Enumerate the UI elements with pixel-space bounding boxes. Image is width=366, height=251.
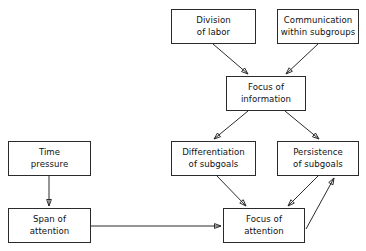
edge-differentiation_subgoals-to-focus_of_attention xyxy=(217,176,246,206)
node-span-of-attention[interactable]: Span of attention xyxy=(8,208,91,243)
edge-focus_of_information-to-persistence_subgoals xyxy=(285,111,319,139)
node-persistence-of-subgoals[interactable]: Persistence of subgoals xyxy=(277,141,359,176)
edge-time_pressure-to-span_of_attention xyxy=(47,176,52,206)
node-time-pressure[interactable]: Time pressure xyxy=(8,141,91,176)
edge-persistence_subgoals-to-focus_of_attention xyxy=(288,176,318,206)
node-focus-of-attention[interactable]: Focus of attention xyxy=(223,208,305,243)
node-label: Differentiation of subgoals xyxy=(182,147,245,170)
node-focus-of-information[interactable]: Focus of information xyxy=(226,76,306,111)
node-differentiation-of-subgoals[interactable]: Differentiation of subgoals xyxy=(171,141,256,176)
node-label: Focus of information xyxy=(241,82,291,105)
edge-division_of_labor-to-focus_of_information xyxy=(213,44,248,74)
node-label: Persistence of subgoals xyxy=(293,147,343,170)
edge-focus_of_information-to-differentiation_subgoals xyxy=(214,111,248,139)
node-label: Focus of attention xyxy=(244,214,284,237)
edge-span_of_attention-to-focus_of_attention xyxy=(91,224,221,229)
diagram-canvas: Division of labor Communication within s… xyxy=(0,0,366,251)
edge-communication_subgroups-to-focus_of_information xyxy=(286,44,318,74)
node-label: Division of labor xyxy=(196,15,230,38)
node-division-of-labor[interactable]: Division of labor xyxy=(171,9,256,44)
node-label: Span of attention xyxy=(30,214,70,237)
edge-focus_of_attention-to-persistence_subgoals xyxy=(306,178,334,229)
arrowhead xyxy=(329,178,334,185)
node-label: Time pressure xyxy=(31,147,69,170)
node-label: Communication within subgroups xyxy=(281,15,355,38)
node-communication-within-subgroups[interactable]: Communication within subgroups xyxy=(277,9,359,44)
